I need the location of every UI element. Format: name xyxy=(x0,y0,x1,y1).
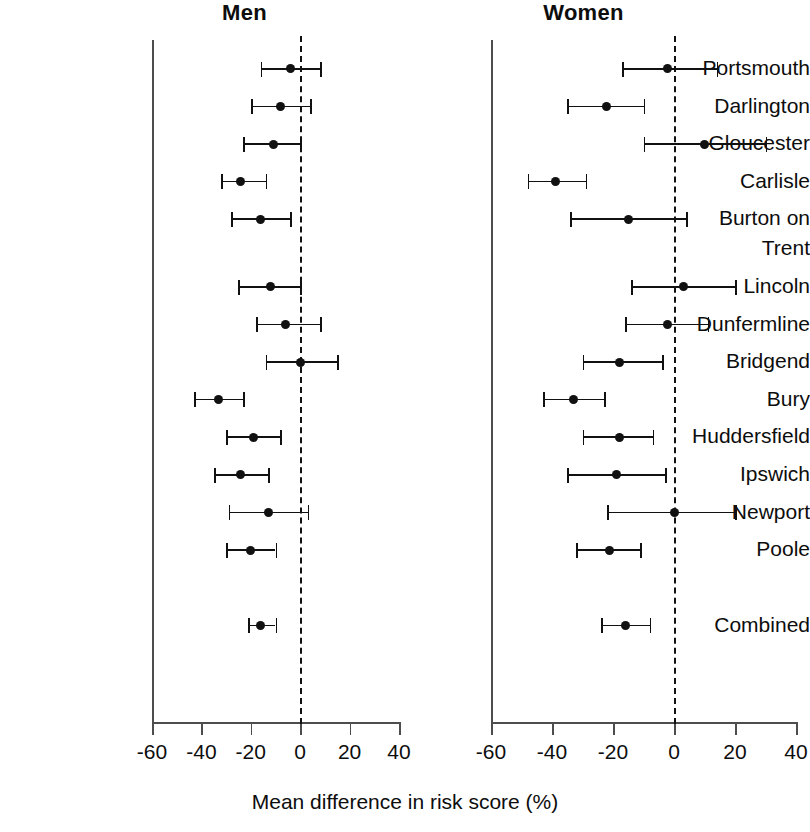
x-axis-tick xyxy=(399,722,401,735)
x-axis-tick xyxy=(796,722,798,735)
confidence-interval-cap xyxy=(662,355,664,370)
confidence-interval-cap xyxy=(243,137,245,152)
x-axis-tick-label: 40 xyxy=(784,740,807,764)
confidence-interval-cap xyxy=(310,99,312,114)
mean-point-marker xyxy=(256,215,265,224)
mean-point-marker xyxy=(621,621,630,630)
confidence-interval-cap xyxy=(290,212,292,227)
confidence-interval-cap xyxy=(631,280,633,295)
x-axis-line xyxy=(152,722,401,724)
confidence-interval-cap xyxy=(625,317,627,332)
confidence-interval-cap xyxy=(735,505,737,520)
x-axis-tick xyxy=(552,722,554,735)
mean-point-marker xyxy=(612,470,621,479)
category-label: Trent xyxy=(666,237,810,258)
x-axis-tick-label: -20 xyxy=(598,740,628,764)
confidence-interval-cap xyxy=(644,99,646,114)
category-label: Ipswich xyxy=(666,463,810,484)
confidence-interval-cap xyxy=(276,543,278,558)
confidence-interval-cap xyxy=(607,505,609,520)
x-axis-tick-label: 0 xyxy=(668,740,680,764)
confidence-interval-cap xyxy=(570,212,572,227)
confidence-interval-cap xyxy=(320,317,322,332)
confidence-interval-cap xyxy=(735,280,737,295)
x-axis-line xyxy=(491,722,798,724)
category-label: Combined xyxy=(666,614,810,635)
confidence-interval-cap xyxy=(280,430,282,445)
confidence-interval-cap xyxy=(261,62,263,77)
mean-point-marker xyxy=(256,621,265,630)
mean-point-marker xyxy=(266,282,275,291)
mean-point-marker xyxy=(605,546,614,555)
mean-point-marker xyxy=(246,546,255,555)
mean-point-marker xyxy=(670,508,679,517)
confidence-interval-cap xyxy=(567,468,569,483)
panel-left-spine xyxy=(491,40,493,722)
confidence-interval-cap xyxy=(194,392,196,407)
confidence-interval-cap xyxy=(266,355,268,370)
confidence-interval-cap xyxy=(586,174,588,189)
confidence-interval-cap xyxy=(231,212,233,227)
mean-point-marker xyxy=(551,177,560,186)
confidence-interval-cap xyxy=(276,618,278,633)
confidence-interval-cap xyxy=(300,137,302,152)
x-axis-tick xyxy=(491,722,493,735)
mean-point-marker xyxy=(281,320,290,329)
confidence-interval-cap xyxy=(601,618,603,633)
confidence-interval-cap xyxy=(583,355,585,370)
confidence-interval-cap xyxy=(256,317,258,332)
x-axis-tick xyxy=(152,722,154,735)
confidence-interval-cap xyxy=(268,468,270,483)
panel-title-women: Women xyxy=(491,0,676,26)
confidence-interval-cap xyxy=(226,543,228,558)
mean-point-marker xyxy=(700,140,709,149)
confidence-interval-cap xyxy=(708,317,710,332)
confidence-interval-cap xyxy=(243,392,245,407)
forest-plot-figure: Men Women PortsmouthDarlingtonGloucester… xyxy=(0,0,810,832)
confidence-interval-cap xyxy=(266,174,268,189)
panel-title-men: Men xyxy=(152,0,337,26)
confidence-interval-cap xyxy=(238,280,240,295)
confidence-interval-cap xyxy=(248,618,250,633)
confidence-interval-cap xyxy=(622,62,624,77)
x-axis-tick-label: -40 xyxy=(537,740,567,764)
confidence-interval-cap xyxy=(686,212,688,227)
mean-point-marker xyxy=(679,282,688,291)
confidence-interval-cap xyxy=(251,99,253,114)
confidence-interval-cap xyxy=(320,62,322,77)
category-label: Bury xyxy=(666,388,810,409)
confidence-interval-cap xyxy=(644,137,646,152)
mean-point-marker xyxy=(214,395,223,404)
category-label: Poole xyxy=(666,538,810,559)
x-axis-tick xyxy=(613,722,615,735)
x-axis-caption: Mean difference in risk score (%) xyxy=(0,790,810,814)
x-axis-tick xyxy=(251,722,253,735)
x-axis-tick xyxy=(735,722,737,735)
confidence-interval-cap xyxy=(640,543,642,558)
confidence-interval-cap xyxy=(650,618,652,633)
confidence-interval-cap xyxy=(300,280,302,295)
x-axis-tick-label: 20 xyxy=(338,740,361,764)
mean-point-marker xyxy=(236,470,245,479)
mean-point-marker xyxy=(615,433,624,442)
mean-point-marker xyxy=(602,102,611,111)
x-axis-tick-label: 0 xyxy=(294,740,306,764)
confidence-interval-cap xyxy=(337,355,339,370)
mean-point-marker xyxy=(269,140,278,149)
panel-left-spine xyxy=(152,40,154,722)
mean-point-marker xyxy=(624,215,633,224)
x-axis-tick-label: -60 xyxy=(137,740,167,764)
mean-point-marker xyxy=(296,358,305,367)
x-axis-tick-label: -60 xyxy=(476,740,506,764)
mean-point-marker xyxy=(286,64,295,73)
confidence-interval-cap xyxy=(221,174,223,189)
confidence-interval-cap xyxy=(665,468,667,483)
confidence-interval-cap xyxy=(528,174,530,189)
mean-point-marker xyxy=(569,395,578,404)
confidence-interval-cap xyxy=(583,430,585,445)
mean-point-marker xyxy=(615,358,624,367)
confidence-interval-cap xyxy=(226,430,228,445)
mean-point-marker xyxy=(264,508,273,517)
category-label: Huddersfield xyxy=(666,425,810,446)
confidence-interval-cap xyxy=(576,543,578,558)
